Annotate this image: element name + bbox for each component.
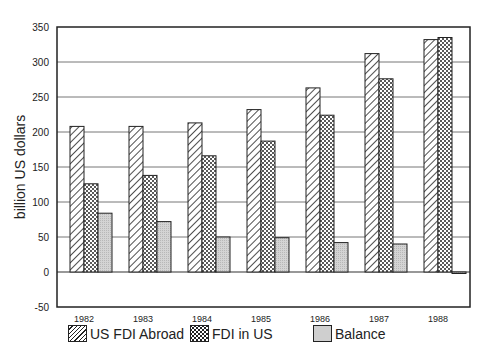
x-axis-ticks: 1982198319841985198619871988 xyxy=(74,314,448,324)
bar-fdi-in-us xyxy=(84,184,98,272)
bar-us-fdi-abroad xyxy=(424,40,438,272)
diagonal-hatch-swatch-icon xyxy=(68,325,87,342)
y-tick-label: 50 xyxy=(38,232,50,243)
bar-us-fdi-abroad xyxy=(70,126,84,272)
bar-balance xyxy=(334,243,348,272)
legend-label: US FDI Abroad xyxy=(90,326,184,342)
bar-balance xyxy=(452,272,466,274)
x-tick-label: 1987 xyxy=(369,314,389,324)
bar-fdi-in-us xyxy=(143,175,157,272)
y-tick-label: -50 xyxy=(35,302,50,313)
legend-item-us-fdi-abroad: US FDI Abroad xyxy=(68,325,184,342)
bar-fdi-in-us xyxy=(202,156,216,272)
y-axis-label: billion US dollars xyxy=(12,115,28,219)
bar-fdi-in-us xyxy=(261,141,275,272)
bar-balance xyxy=(216,237,230,272)
bars xyxy=(70,38,466,274)
bar-us-fdi-abroad xyxy=(129,126,143,272)
bar-balance xyxy=(98,213,112,272)
legend-item-fdi-in-us: FDI in US xyxy=(190,325,273,342)
y-tick-label: 0 xyxy=(43,267,49,278)
y-tick-label: 250 xyxy=(32,92,49,103)
y-tick-label: 300 xyxy=(32,57,49,68)
legend-label: Balance xyxy=(335,326,386,342)
bar-balance xyxy=(393,244,407,272)
x-tick-label: 1983 xyxy=(133,314,153,324)
x-tick-label: 1988 xyxy=(428,314,448,324)
bar-us-fdi-abroad xyxy=(365,54,379,272)
x-tick-label: 1984 xyxy=(192,314,212,324)
cross-hatch-swatch-icon xyxy=(190,325,209,342)
bar-us-fdi-abroad xyxy=(306,88,320,272)
bar-chart: -50050100150200250300350 198219831984198… xyxy=(0,0,488,325)
x-tick-label: 1985 xyxy=(251,314,271,324)
y-tick-label: 150 xyxy=(32,162,49,173)
y-axis-ticks: -50050100150200250300350 xyxy=(32,22,49,313)
bar-balance xyxy=(157,222,171,272)
legend-item-balance: Balance xyxy=(313,325,386,342)
bar-us-fdi-abroad xyxy=(247,110,261,272)
y-tick-label: 350 xyxy=(32,22,49,33)
gray-swatch-icon xyxy=(313,325,332,342)
legend-label: FDI in US xyxy=(212,326,273,342)
x-tick-label: 1982 xyxy=(74,314,94,324)
y-tick-label: 100 xyxy=(32,197,49,208)
bar-us-fdi-abroad xyxy=(188,123,202,272)
bar-fdi-in-us xyxy=(438,38,452,273)
bar-balance xyxy=(275,238,289,272)
bar-fdi-in-us xyxy=(379,79,393,272)
bar-fdi-in-us xyxy=(320,115,334,272)
y-tick-label: 200 xyxy=(32,127,49,138)
x-tick-label: 1986 xyxy=(310,314,330,324)
legend: US FDI Abroad FDI in US Balance xyxy=(0,325,488,353)
